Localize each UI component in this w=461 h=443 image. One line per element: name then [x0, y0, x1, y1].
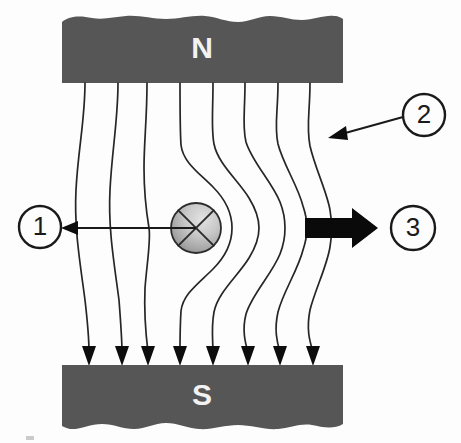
field-line-arrowheads	[82, 346, 320, 366]
field-line-8	[308, 83, 332, 352]
north-pole-label: N	[191, 31, 213, 64]
field-line-2	[110, 83, 122, 352]
scan-artifact-mark	[26, 436, 34, 440]
callout-1[interactable]: 1	[19, 206, 196, 248]
field-line-1	[76, 83, 89, 352]
force-arrow	[305, 208, 378, 248]
callout-3[interactable]: 3	[391, 206, 435, 250]
field-line-3	[144, 83, 150, 352]
field-line-7	[276, 83, 307, 352]
callout-2-leader	[338, 117, 403, 135]
callout-2[interactable]: 2	[328, 94, 445, 140]
south-pole-block: S	[62, 365, 343, 429]
diagram-canvas: N	[0, 0, 461, 443]
magnetic-field-diagram: N	[0, 0, 461, 443]
north-pole-block: N	[62, 16, 343, 83]
callout-3-label: 3	[406, 212, 420, 242]
callout-1-arrowhead	[61, 221, 78, 235]
callout-1-label: 1	[33, 211, 47, 241]
south-pole-label: S	[192, 378, 212, 411]
callout-2-arrowhead	[328, 126, 348, 140]
callout-2-label: 2	[417, 99, 431, 129]
